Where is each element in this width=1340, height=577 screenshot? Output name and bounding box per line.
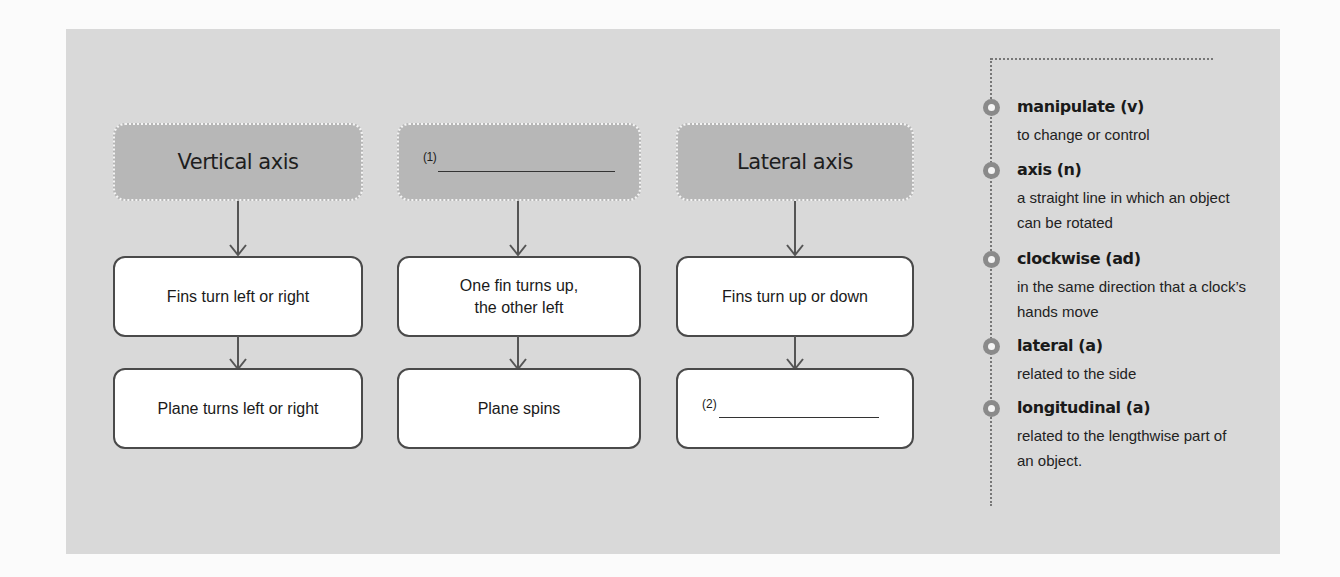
step-label: Fins turn left or right: [167, 286, 309, 308]
step-label-line2: the other left: [460, 297, 578, 319]
header-lateral-axis: Lateral axis: [676, 123, 914, 201]
glossary-term: longitudinal (a): [1017, 398, 1150, 417]
blank-number: (1): [423, 150, 436, 164]
bullet-icon: [983, 99, 1000, 116]
step-label: Plane spins: [478, 398, 561, 420]
bullet-icon: [983, 338, 1000, 355]
glossary-dotted-rule: [991, 58, 1213, 60]
step-box-fins-up-down: Fins turn up or down: [676, 256, 914, 337]
arrow-down-icon: [228, 201, 248, 257]
step-box-plane-left-right: Plane turns left or right: [113, 368, 363, 449]
glossary-definition: in the same direction that a clock’s han…: [1017, 274, 1247, 324]
glossary-dotted-rule-vertical: [990, 58, 992, 506]
arrow-down-icon: [785, 336, 805, 370]
glossary-definition: related to the lengthwise part of an obj…: [1017, 423, 1247, 473]
header-label: Vertical axis: [178, 150, 299, 174]
bullet-icon: [983, 162, 1000, 179]
blank-number: (2): [702, 393, 717, 415]
arrow-down-icon: [228, 336, 248, 370]
bullet-icon: [983, 400, 1000, 417]
arrow-down-icon: [785, 201, 805, 257]
step-box-blank-2: (2): [676, 368, 914, 449]
fill-in-blank-2[interactable]: [719, 399, 879, 418]
arrow-down-icon: [508, 201, 528, 257]
fill-in-blank-1[interactable]: [438, 153, 615, 172]
step-label: Plane turns left or right: [158, 398, 319, 420]
glossary-term: lateral (a): [1017, 336, 1103, 355]
step-box-one-fin-up: One fin turns up, the other left: [397, 256, 641, 337]
step-box-plane-spins: Plane spins: [397, 368, 641, 449]
step-label: Fins turn up or down: [722, 286, 868, 308]
glossary-definition: to change or control: [1017, 122, 1247, 147]
glossary-term: manipulate (v): [1017, 97, 1144, 116]
header-blank-1: (1): [397, 123, 641, 201]
glossary-term: clockwise (ad): [1017, 249, 1141, 268]
glossary-definition: a straight line in which an object can b…: [1017, 185, 1247, 235]
glossary-term: axis (n): [1017, 160, 1082, 179]
step-box-fins-left-right: Fins turn left or right: [113, 256, 363, 337]
bullet-icon: [983, 251, 1000, 268]
header-label: Lateral axis: [737, 150, 853, 174]
step-label-line1: One fin turns up,: [460, 275, 578, 297]
glossary-definition: related to the side: [1017, 361, 1247, 386]
header-vertical-axis: Vertical axis: [113, 123, 363, 201]
arrow-down-icon: [508, 336, 528, 370]
